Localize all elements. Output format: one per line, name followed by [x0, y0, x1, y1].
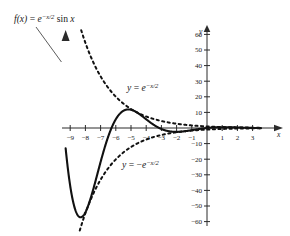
x-tick-label: −5 — [127, 134, 135, 142]
fn-label-x: x — [69, 13, 75, 24]
x-tick-label: −6 — [112, 134, 120, 142]
y-tick-label: −40 — [191, 187, 203, 195]
y-tick-label: 50 — [195, 46, 203, 54]
plot-canvas: −9−8−7−6−5−4−3−2−1123 −60−50−40−30−20−10… — [0, 0, 290, 236]
y-tick-label: 10 — [195, 109, 203, 117]
axes-group: −9−8−7−6−5−4−3−2−1123 −60−50−40−30−20−10… — [62, 25, 283, 226]
lower-envelope-label: y = −e−x/2 — [121, 159, 159, 170]
x-tick-label: −7 — [97, 134, 105, 142]
upper-label-exponent: −x/2 — [146, 82, 159, 89]
annotations-group: f(x) = e−x/2 sin x y = e−x/2 y = −e−x/2 … — [14, 13, 281, 170]
y-tick-label: −20 — [191, 156, 203, 164]
y-tick-label: 40 — [195, 62, 203, 70]
fn-label-exponent: −x/2 — [42, 13, 55, 20]
y-tick-label: −30 — [191, 171, 203, 179]
y-tick-label: −10 — [191, 140, 203, 148]
x-axis-tick-labels: −9−8−7−6−5−4−3−2−1123 — [66, 134, 254, 142]
x-tick-label: 1 — [220, 134, 224, 142]
fn-label-paren: (x) — [17, 13, 28, 25]
callout-leader-line — [36, 27, 61, 62]
y-axis-arrow — [204, 25, 211, 32]
upper-label-equals: = — [131, 82, 141, 93]
fn-label-equals: = — [27, 13, 37, 24]
y-axis-name-label: y — [198, 27, 203, 36]
fn-label-sin: sin — [54, 13, 70, 24]
function-equation-label: f(x) = e−x/2 sin x — [14, 13, 75, 25]
function-curve-arrow — [62, 30, 70, 41]
lower-label-equals: = — [126, 159, 136, 170]
y-tick-label: −60 — [191, 218, 203, 226]
x-tick-label: −9 — [66, 134, 74, 142]
upper-envelope-label: y = e−x/2 — [126, 82, 159, 93]
x-tick-label: 3 — [251, 134, 255, 142]
y-tick-label: 30 — [195, 78, 203, 86]
x-axis-name-label: x — [276, 130, 281, 139]
lower-label-exponent: −x/2 — [146, 159, 159, 166]
y-tick-label: −50 — [191, 202, 203, 210]
x-tick-label: −8 — [82, 134, 90, 142]
upper-envelope-curve — [81, 30, 261, 128]
x-tick-label: 2 — [236, 134, 240, 142]
damped-sine-figure: −9−8−7−6−5−4−3−2−1123 −60−50−40−30−20−10… — [0, 0, 290, 236]
x-tick-label: −2 — [173, 134, 181, 142]
damped-sine-curve — [66, 109, 261, 217]
y-tick-label: 20 — [195, 93, 203, 101]
